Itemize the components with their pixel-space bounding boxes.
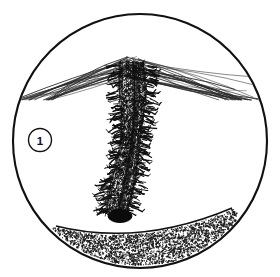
dark-basal-swelling — [108, 210, 132, 223]
callout-marker-1[interactable]: 1 — [29, 129, 52, 152]
figure-root: 1 — [0, 0, 280, 277]
circular-illustration: 1 — [0, 0, 280, 277]
callout-label: 1 — [37, 135, 44, 147]
